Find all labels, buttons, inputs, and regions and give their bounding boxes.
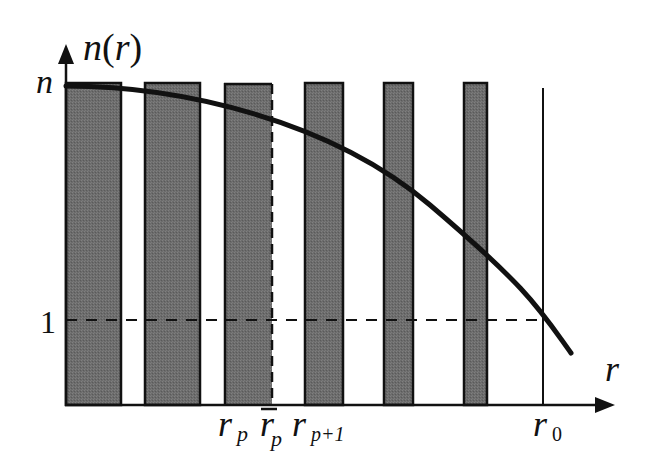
y-axis-arrow-icon bbox=[58, 44, 74, 64]
svg-text:r: r bbox=[533, 404, 548, 444]
bars-group bbox=[66, 83, 487, 405]
bar-2 bbox=[145, 83, 200, 405]
svg-text:p: p bbox=[269, 426, 282, 451]
x-axis-arrow-icon bbox=[595, 397, 615, 413]
svg-text:0: 0 bbox=[552, 423, 562, 445]
svg-text:r: r bbox=[218, 404, 233, 444]
bar-5 bbox=[384, 83, 413, 405]
bar-1 bbox=[66, 83, 121, 405]
label-r-p1: r p+1 bbox=[292, 404, 345, 446]
index-profile-diagram: n(r) n 1 r r p r p r p+1 r 0 bbox=[0, 0, 651, 464]
tick-label-n: n bbox=[36, 63, 53, 100]
label-r-p: r p bbox=[218, 404, 248, 446]
svg-text:p: p bbox=[235, 421, 248, 446]
label-r-0: r 0 bbox=[533, 404, 562, 445]
label-r-bar-p: r p bbox=[260, 404, 282, 451]
svg-text:r: r bbox=[292, 404, 307, 444]
y-axis-label: n(r) bbox=[83, 26, 142, 69]
tick-label-1: 1 bbox=[40, 304, 56, 340]
svg-text:p+1: p+1 bbox=[309, 423, 345, 446]
bar-3 bbox=[224, 83, 272, 405]
x-axis-label: r bbox=[605, 349, 620, 389]
